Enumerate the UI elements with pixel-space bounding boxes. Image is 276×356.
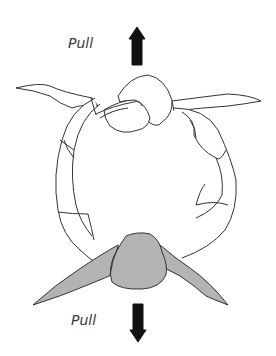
arrow-up-icon <box>129 27 145 65</box>
arrow-down-icon <box>130 304 146 342</box>
knot-illustration <box>0 0 276 356</box>
knot-diagram: Pull Pull <box>0 0 276 356</box>
